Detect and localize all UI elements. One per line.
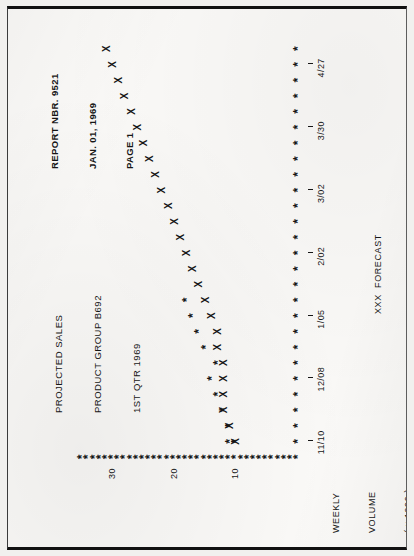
data-point-actual: *: [182, 298, 192, 303]
data-point-forecast: X: [194, 281, 204, 288]
y-axis-label-line-3: ( x 1000 ): [402, 489, 407, 533]
x-axis-tick: [308, 252, 313, 253]
y-axis-label-line-2: VOLUME: [366, 489, 378, 533]
data-point-actual: *: [225, 439, 235, 444]
x-axis-tick-label: 4/27: [316, 58, 326, 77]
x-axis-tick-label: 12/08: [316, 367, 326, 392]
axis-baseline-mark: *: [293, 439, 303, 444]
data-point-actual: *: [219, 408, 229, 413]
axis-baseline-mark: *: [293, 78, 303, 83]
axis-baseline-mark: *: [293, 235, 303, 240]
data-point-forecast: X: [182, 250, 192, 257]
data-point-actual: *: [188, 313, 198, 318]
data-point-forecast: X: [164, 202, 174, 209]
axis-baseline-mark: *: [293, 251, 303, 256]
data-point-actual: *: [207, 376, 217, 381]
axis-baseline-mark: *: [293, 62, 303, 67]
x-axis-tick-label: 3/02: [316, 184, 326, 203]
axis-baseline-mark: *: [293, 392, 303, 397]
x-axis-tick: [308, 63, 313, 64]
data-point-forecast: X: [139, 140, 149, 147]
data-point-forecast: X: [151, 171, 161, 178]
y-axis-tick-label: 10: [230, 468, 240, 479]
data-point-actual: *: [201, 345, 211, 350]
x-axis-tick: [308, 440, 313, 441]
axis-baseline-mark: *: [293, 408, 303, 413]
legend-label-forecast: FORECAST: [373, 234, 383, 288]
legend-symbol-forecast: XXX: [373, 294, 383, 314]
legend-item-forecast: XXX FORECAST: [360, 234, 396, 345]
axis-baseline-mark: *: [293, 125, 303, 130]
data-point-actual: *: [194, 329, 204, 334]
chart-title-block: PROJECTED SALES PRODUCT GROUP B692 1ST Q…: [26, 295, 169, 413]
data-point-forecast: X: [213, 328, 223, 335]
axis-baseline-mark: *: [293, 266, 303, 271]
y-axis-tick-label: 20: [169, 468, 179, 479]
axis-baseline-mark: *: [293, 203, 303, 208]
chart-legend: XXX FORECAST *** ACTUAL: [336, 234, 407, 345]
data-point-actual: *: [225, 423, 235, 428]
axis-baseline-mark: *: [293, 360, 303, 365]
axis-baseline-mark: *: [293, 345, 303, 350]
y-axis-label: WEEKLY VOLUME ( x 1000 ): [306, 489, 407, 533]
data-point-forecast: X: [201, 297, 211, 304]
data-point-forecast: X: [120, 92, 130, 99]
x-axis-tick: [308, 189, 313, 190]
y-axis-label-line-1: WEEKLY: [330, 489, 342, 533]
scanned-report-page: REPORT NBR. 9521 JAN. 01, 1969 PAGE 1 PR…: [0, 0, 414, 556]
printout-content: REPORT NBR. 9521 JAN. 01, 1969 PAGE 1 PR…: [10, 11, 400, 541]
x-axis-tick-label: 11/10: [316, 430, 326, 454]
data-point-forecast: X: [213, 344, 223, 351]
data-point-forecast: X: [157, 187, 167, 194]
data-point-forecast: X: [145, 155, 155, 162]
paper-sheet: REPORT NBR. 9521 JAN. 01, 1969 PAGE 1 PR…: [7, 6, 407, 550]
chart-title-line-1: PROJECTED SALES: [52, 295, 65, 413]
x-axis-tick: [308, 315, 313, 316]
axis-column-mark: *: [77, 455, 87, 460]
axis-baseline-mark: *: [293, 93, 303, 98]
axis-baseline-mark: *: [293, 156, 303, 161]
axis-baseline-mark: *: [293, 376, 303, 381]
data-point-forecast: X: [114, 77, 124, 84]
report-header-line-3: PAGE 1: [124, 73, 137, 169]
axis-baseline-mark: *: [293, 141, 303, 146]
report-header-line-1: REPORT NBR. 9521: [49, 73, 62, 169]
data-point-actual: *: [213, 360, 223, 365]
axis-baseline-mark: *: [293, 423, 303, 428]
axis-baseline-mark: *: [293, 313, 303, 318]
data-point-forecast: X: [219, 375, 229, 382]
axis-baseline-mark: *: [293, 298, 303, 303]
chart-title-line-3: 1ST QTR 1969: [130, 295, 143, 413]
data-point-forecast: X: [127, 108, 137, 115]
report-header: REPORT NBR. 9521 JAN. 01, 1969 PAGE 1: [24, 73, 162, 169]
y-axis-tick-label: 30: [107, 468, 117, 479]
axis-baseline-mark: *: [293, 188, 303, 193]
data-point-forecast: X: [207, 312, 217, 319]
x-axis-tick-label: 1/05: [316, 310, 326, 329]
data-point-forecast: X: [108, 61, 118, 68]
data-point-forecast: X: [170, 218, 180, 225]
data-point-forecast: X: [176, 234, 186, 241]
axis-baseline-mark: *: [293, 172, 303, 177]
x-axis-tick: [308, 126, 313, 127]
data-point-forecast: X: [188, 265, 198, 272]
x-axis-tick-label: 3/30: [316, 121, 326, 140]
chart-title-line-2: PRODUCT GROUP B692: [91, 295, 104, 413]
axis-baseline-mark: *: [293, 46, 303, 51]
axis-baseline-mark: *: [293, 329, 303, 334]
data-point-forecast: X: [133, 124, 143, 131]
axis-baseline-mark: *: [293, 282, 303, 287]
x-axis-tick-label: 2/02: [316, 247, 326, 266]
data-point-actual: *: [213, 392, 223, 397]
data-point-forecast: X: [102, 45, 112, 52]
report-header-line-2: JAN. 01, 1969: [87, 73, 100, 169]
axis-baseline-mark: *: [293, 109, 303, 114]
x-axis-tick: [308, 377, 313, 378]
axis-baseline-mark: *: [293, 219, 303, 224]
